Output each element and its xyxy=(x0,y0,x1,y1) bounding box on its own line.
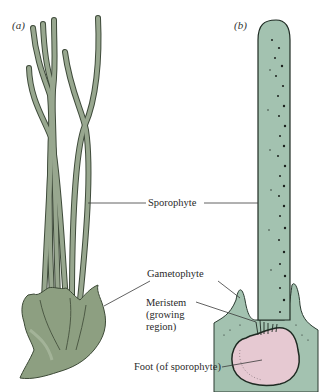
label-foot: Foot (of sporophyte) xyxy=(134,361,221,373)
sporophyte-filaments-a xyxy=(29,18,98,300)
hornwort-diagram: (a) (b) Sporophyte Gametophyte Meristem … xyxy=(0,0,332,392)
panel-label-b: (b) xyxy=(234,19,247,31)
label-sporophyte: Sporophyte xyxy=(148,197,196,209)
label-meristem-line1: Meristem xyxy=(146,297,186,309)
illustration xyxy=(0,0,332,392)
gametophyte-a xyxy=(20,285,106,379)
label-meristem-line3: region) xyxy=(146,321,176,333)
panel-label-a: (a) xyxy=(12,19,25,31)
label-gametophyte: Gametophyte xyxy=(147,268,204,280)
label-meristem-line2: (growing xyxy=(146,309,185,321)
